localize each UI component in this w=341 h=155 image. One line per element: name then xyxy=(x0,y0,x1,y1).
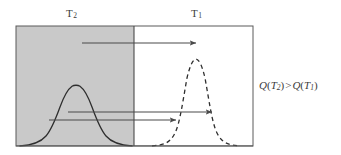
inequality-annotation: Q(T2)>Q(T1) xyxy=(259,79,318,92)
plot-region-t1 xyxy=(134,26,253,146)
inequality-right-close-paren: ) xyxy=(314,79,318,91)
region-label-t1-symbol: T xyxy=(191,7,198,19)
region-label-t1-subscript: 1 xyxy=(198,11,202,20)
shaded-region-t2 xyxy=(16,26,134,146)
thermodynamic-distribution-figure: T2 T1 Q(T2)>Q(T1) xyxy=(0,0,341,155)
inequality-left-q: Q xyxy=(259,79,267,91)
figure-canvas xyxy=(0,0,341,155)
region-label-t1: T1 xyxy=(191,7,202,20)
region-label-t2-subscript: 2 xyxy=(73,11,77,20)
region-label-t2: T2 xyxy=(66,7,77,20)
region-label-t2-symbol: T xyxy=(66,7,73,19)
